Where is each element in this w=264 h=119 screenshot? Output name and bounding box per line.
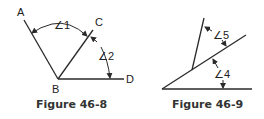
angle2-label: ∠2 (98, 50, 114, 62)
point-c-label: C (95, 16, 103, 28)
point-d-label: D (126, 73, 134, 85)
angle4-arrow-up (213, 59, 218, 68)
figure-46-8: A C B D ∠1 ∠2 Figure 46-8 (17, 6, 134, 111)
upper-ray (192, 18, 204, 70)
ray-ba (24, 20, 58, 79)
figure-46-8-caption: Figure 46-8 (36, 98, 107, 111)
ray-bc (58, 30, 93, 79)
point-b-label: B (52, 83, 59, 95)
figure-46-9-caption: Figure 46-9 (172, 98, 243, 111)
point-a-label: A (17, 6, 25, 18)
diagram-canvas: A C B D ∠1 ∠2 Figure 46-8 ∠5 ∠4 Figure 4… (0, 0, 264, 119)
angle1-label: ∠1 (54, 19, 70, 31)
angle4-label: ∠4 (214, 68, 230, 80)
figure-46-9: ∠5 ∠4 Figure 46-9 (162, 18, 252, 111)
inclined-line (162, 35, 246, 89)
angle2-arc-up (91, 37, 97, 42)
angle5-label: ∠5 (213, 29, 229, 41)
angle5-arrow-left (205, 27, 212, 31)
angle1-arc-left (32, 24, 52, 33)
